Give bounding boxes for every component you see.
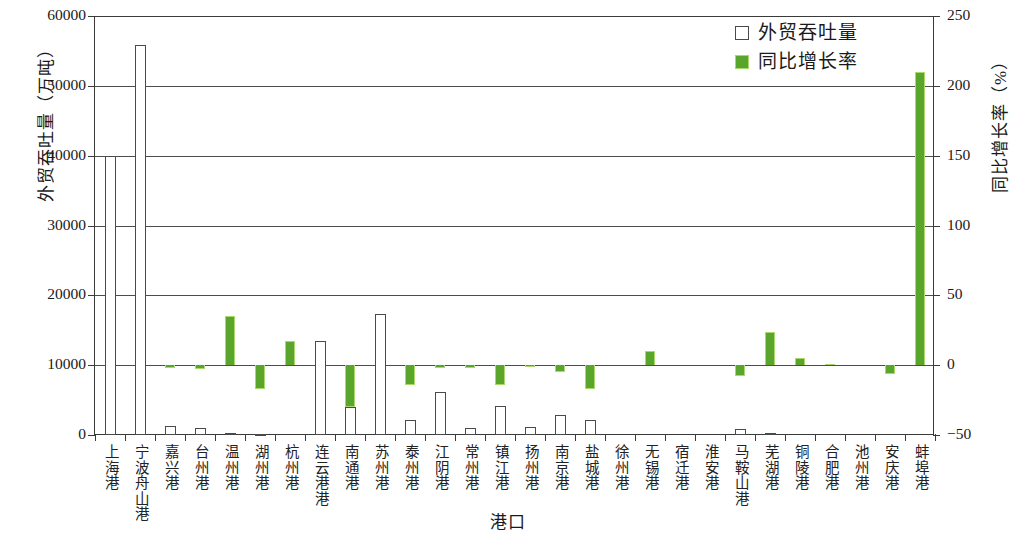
x-axis-tick [455,434,456,441]
x-axis-category-label: 江阴港 [431,444,448,491]
y-axis-left-ticklabel: 50000 [6,76,86,94]
x-axis-tick [815,434,816,441]
x-axis-category-label: 南京港 [551,444,568,491]
x-axis-category-label: 宁波舟山港 [131,444,148,522]
y-axis-left-ticklabel: 0 [6,425,86,443]
x-axis-tick [335,434,336,441]
y-axis-left-ticklabel: 20000 [6,285,86,303]
x-axis-tick [515,434,516,441]
x-axis-tick [725,434,726,441]
x-axis-tick [695,434,696,441]
x-axis-category-label: 淮安港 [701,444,718,491]
growth-rate-bar [495,365,505,385]
growth-rate-bar [345,365,355,407]
growth-rate-bar [645,351,655,365]
growth-rate-bar [735,365,745,376]
x-axis-category-label: 马鞍山港 [731,444,748,506]
gridline [95,86,933,87]
growth-rate-bar [435,365,445,368]
x-axis-category-label: 铜陵港 [791,444,808,491]
x-axis-tick [545,434,546,441]
x-axis-tick [215,434,216,441]
gridline [95,16,933,17]
x-axis-category-label: 湖州港 [251,444,268,491]
y-axis-left-tick [88,156,95,157]
y-axis-left-ticklabel: 40000 [6,146,86,164]
x-axis-category-label: 宿迁港 [671,444,688,491]
x-axis-tick [275,434,276,441]
plot-area [94,16,934,435]
y-axis-left-tick [88,365,95,366]
y-axis-right-tick [933,365,940,366]
y-axis-left-tick [88,435,95,436]
x-axis-category-label: 芜湖港 [761,444,778,491]
x-axis-tick [755,434,756,441]
x-axis-tick [305,434,306,441]
growth-rate-bar [255,365,265,389]
tonnage-bar [405,420,416,435]
growth-rate-bar [525,365,535,366]
gridline [95,365,933,366]
x-axis-category-label: 台州港 [191,444,208,491]
y-axis-left-tick [88,295,95,296]
tonnage-bar [165,426,176,435]
growth-rate-bar [765,332,775,366]
tonnage-bar [465,428,476,435]
x-axis-category-label: 徐州港 [611,444,628,491]
y-axis-left-title: 外贸吞吐量（万吨） [32,0,57,251]
x-axis-tick [935,434,936,441]
x-axis-category-label: 镇江港 [491,444,508,491]
x-axis-tick [905,434,906,441]
x-axis-tick [485,434,486,441]
y-axis-left-ticklabel: 60000 [6,6,86,24]
gridline [95,226,933,227]
tonnage-bar [765,433,776,435]
growth-rate-bar [195,365,205,369]
tonnage-bar [225,433,236,435]
y-axis-right-ticklabel: 150 [947,146,1007,164]
x-axis-category-label: 蚌埠港 [911,444,928,491]
tonnage-bar [735,429,746,435]
y-axis-right-ticklabel: 200 [947,76,1007,94]
x-axis-tick [575,434,576,441]
y-axis-right-ticklabel: 0 [947,355,1007,373]
gridline [95,295,933,296]
gridline [95,156,933,157]
tonnage-bar [105,156,116,435]
x-axis-tick [845,434,846,441]
y-axis-right-tick [933,86,940,87]
tonnage-bar [555,415,566,435]
tonnage-bar [525,427,536,435]
x-axis-category-label: 杭州港 [281,444,298,491]
x-axis-tick [665,434,666,441]
tonnage-bar [345,407,356,435]
x-axis-category-label: 苏州港 [371,444,388,491]
tonnage-bar [435,392,446,435]
growth-rate-bar [465,365,475,368]
y-axis-left-ticklabel: 10000 [6,355,86,373]
growth-rate-bar [285,341,295,365]
x-axis-category-label: 温州港 [221,444,238,491]
x-axis-category-label: 嘉兴港 [161,444,178,491]
x-axis-tick [395,434,396,441]
chart-figure: 外贸吞吐量（万吨） 同比增长率（%） 港口 外贸吞吐量 同比增长率 010000… [0,0,1016,539]
x-axis-category-label: 安庆港 [881,444,898,491]
y-axis-left-ticklabel: 30000 [6,216,86,234]
x-axis-category-label: 无锡港 [641,444,658,491]
y-axis-right-tick [933,16,940,17]
x-axis-category-label: 泰州港 [401,444,418,491]
y-axis-right-tick [933,295,940,296]
tonnage-bar [585,420,596,435]
tonnage-bar [315,341,326,435]
x-axis-category-label: 盐城港 [581,444,598,491]
tonnage-bar [375,314,386,435]
growth-rate-bar [225,316,235,365]
y-axis-right-tick [933,156,940,157]
x-axis-tick [125,434,126,441]
x-axis-tick [425,434,426,441]
y-axis-right-ticklabel: −50 [947,425,1007,443]
x-axis-category-label: 上海港 [101,444,118,491]
x-axis-tick [365,434,366,441]
growth-rate-bar [885,365,895,373]
x-axis-tick [155,434,156,441]
